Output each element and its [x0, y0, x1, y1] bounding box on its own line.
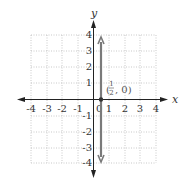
svg-text:4: 4	[153, 103, 159, 114]
coordinate-plane: x y -4 -3 -2 -1 1 2 3 4 0 4 3 2 1 -1 -2 …	[0, 0, 186, 188]
point-half-zero	[99, 97, 103, 101]
x-axis-label: x	[172, 93, 179, 106]
svg-text:1: 1	[109, 80, 113, 88]
svg-text:2: 2	[109, 89, 113, 97]
point-annotation: ( 1 2 , 0)	[106, 80, 132, 97]
svg-text:4: 4	[86, 29, 92, 40]
svg-text:-2: -2	[57, 103, 67, 114]
svg-text:1: 1	[106, 103, 112, 114]
svg-text:2: 2	[122, 103, 128, 114]
svg-text:3: 3	[86, 45, 92, 56]
svg-text:-2: -2	[82, 126, 92, 137]
svg-text:3: 3	[137, 103, 143, 114]
svg-text:1: 1	[86, 77, 92, 88]
svg-text:-4: -4	[26, 103, 36, 114]
svg-text:, 0): , 0)	[115, 84, 132, 95]
svg-text:-3: -3	[82, 142, 92, 153]
svg-text:2: 2	[86, 61, 92, 72]
x-axis	[17, 97, 168, 102]
x-tick-labels: -4 -3 -2 -1 1 2 3 4	[26, 103, 159, 114]
y-axis-label: y	[90, 7, 98, 20]
svg-text:-1: -1	[82, 110, 92, 121]
svg-text:-4: -4	[82, 157, 92, 168]
svg-text:-3: -3	[42, 103, 52, 114]
y-tick-labels: 4 3 2 1 -1 -2 -3 -4	[82, 29, 92, 168]
